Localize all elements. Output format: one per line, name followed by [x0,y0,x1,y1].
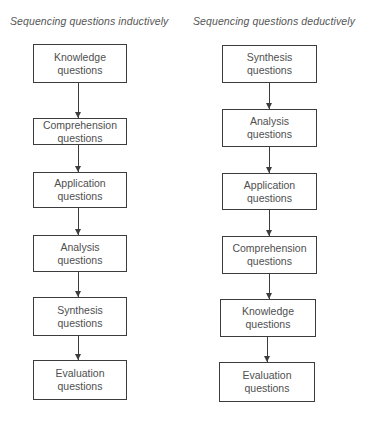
title-inductive: Sequencing questions inductively [10,15,168,27]
box-label-line1: Knowledge [242,305,294,318]
box-label-line1: Evaluation [55,367,104,380]
arrow-down-icon [78,145,79,172]
left-box-evaluation: Evaluation questions [33,360,127,400]
box-label-line1: Evaluation [242,369,291,382]
box-label-line1: Application [244,179,295,192]
box-label-line2: questions [247,255,292,268]
box-label-line1: Comprehension [232,242,306,255]
right-box-knowledge: Knowledge questions [220,299,316,337]
arrow-down-icon [78,336,79,360]
arrow-down-icon [267,337,268,362]
box-label-line1: Synthesis [247,51,293,64]
box-label-line1: Analysis [250,115,289,128]
box-label-line2: questions [58,132,103,145]
box-label-line1: Application [54,177,105,190]
box-label-line2: questions [247,192,292,205]
left-box-application: Application questions [33,172,127,208]
box-label-line1: Knowledge [54,51,106,64]
left-box-analysis: Analysis questions [33,235,127,272]
box-label-line2: questions [58,254,103,267]
arrow-down-icon [78,272,79,297]
right-box-application: Application questions [222,173,317,210]
right-box-analysis: Analysis questions [222,109,317,147]
right-box-comprehension: Comprehension questions [222,236,317,274]
box-label-line1: Analysis [60,241,99,254]
box-label-line2: questions [58,190,103,203]
box-label-line2: questions [245,382,290,395]
title-deductive: Sequencing questions deductively [193,15,355,27]
right-box-synthesis: Synthesis questions [222,45,317,83]
arrow-down-icon [269,274,270,299]
box-label-line2: questions [58,380,103,393]
arrow-down-icon [269,210,270,236]
box-label-line1: Synthesis [57,304,103,317]
left-box-comprehension: Comprehension questions [33,118,127,145]
box-label-line2: questions [58,317,103,330]
right-box-evaluation: Evaluation questions [219,362,315,402]
arrow-down-icon [78,83,79,118]
arrow-down-icon [269,83,270,109]
box-label-line2: questions [58,64,103,77]
left-box-knowledge: Knowledge questions [33,44,127,83]
box-label-line2: questions [247,128,292,141]
left-box-synthesis: Synthesis questions [33,297,127,336]
arrow-down-icon [269,147,270,173]
box-label-line1: Comprehension [43,119,117,132]
box-label-line2: questions [246,318,291,331]
box-label-line2: questions [247,64,292,77]
arrow-down-icon [78,208,79,235]
